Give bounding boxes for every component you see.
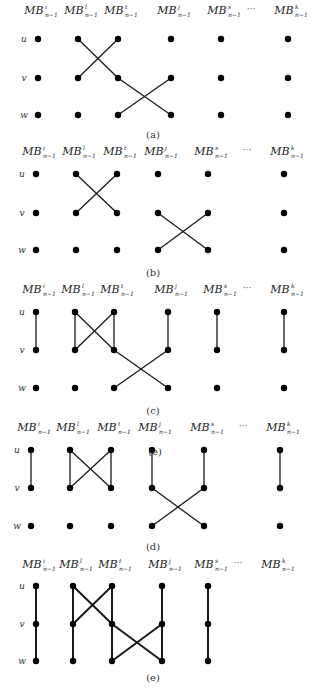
column-subscript: n−1 bbox=[224, 290, 237, 297]
vertex-j-w bbox=[155, 247, 161, 253]
column-superscript-k: k bbox=[291, 144, 295, 151]
panel-a: MBin−1MBln−1MBtn−1MBjn−1MBsn−1···MBkn−1u… bbox=[20, 3, 308, 140]
column-subscript: n−1 bbox=[77, 428, 90, 435]
column-label-s: MB bbox=[193, 558, 213, 571]
panel-caption-b: (b) bbox=[146, 267, 160, 278]
column-label-l: MB bbox=[60, 283, 80, 296]
column-label-s: MB bbox=[206, 4, 226, 17]
panel-caption-d: (d) bbox=[146, 541, 160, 552]
vertex-t-w bbox=[109, 658, 115, 664]
vertex-s-w bbox=[201, 523, 207, 529]
vertex-i-w bbox=[33, 247, 39, 253]
column-superscript-i: i bbox=[43, 144, 45, 151]
vertex-l-w bbox=[73, 247, 79, 253]
vertex-s-u bbox=[218, 36, 224, 42]
column-superscript-k: k bbox=[291, 282, 295, 289]
column-superscript-k: k bbox=[282, 557, 286, 564]
column-superscript-t: t bbox=[119, 557, 122, 564]
vertex-l-w bbox=[75, 112, 81, 118]
vertex-t-u bbox=[108, 447, 114, 453]
column-label-i: MB bbox=[21, 283, 41, 296]
column-ellipsis: ··· bbox=[234, 558, 243, 568]
vertex-l-u bbox=[72, 309, 78, 315]
vertex-k-w bbox=[281, 385, 287, 391]
column-subscript: n−1 bbox=[215, 565, 228, 572]
vertex-k-v bbox=[285, 75, 291, 81]
vertex-i-w bbox=[33, 385, 39, 391]
column-subscript: n−1 bbox=[43, 152, 56, 159]
column-label-l: MB bbox=[63, 4, 83, 17]
column-superscript-i: i bbox=[45, 3, 47, 10]
panel-caption-c: (c) bbox=[146, 405, 160, 416]
panel-e: MBin−1MBln−1MBtn−1MBjn−1MBsn−1···MBkn−1u… bbox=[18, 557, 295, 683]
panel-caption-a: (a) bbox=[146, 129, 160, 140]
column-label-j: MB bbox=[147, 558, 167, 571]
vertex-s-w bbox=[205, 247, 211, 253]
vertex-k-w bbox=[281, 247, 287, 253]
vertex-j-u bbox=[168, 36, 174, 42]
vertex-l-u bbox=[67, 447, 73, 453]
vertex-l-v bbox=[72, 347, 78, 353]
column-subscript: n−1 bbox=[178, 11, 191, 18]
column-label-l: MB bbox=[58, 558, 78, 571]
vertex-l-w bbox=[67, 523, 73, 529]
column-subscript: n−1 bbox=[287, 428, 300, 435]
vertex-i-u bbox=[33, 171, 39, 177]
column-subscript: n−1 bbox=[291, 152, 304, 159]
column-label-s: MB bbox=[193, 145, 213, 158]
vertex-k-u bbox=[277, 447, 283, 453]
column-label-k: MB bbox=[269, 145, 289, 158]
vertex-k-v bbox=[281, 347, 287, 353]
vertex-s-u bbox=[205, 171, 211, 177]
vertex-t-v bbox=[114, 210, 120, 216]
vertex-j-w bbox=[168, 112, 174, 118]
vertex-i-w bbox=[33, 658, 39, 664]
vertex-j-w bbox=[159, 658, 165, 664]
vertex-s-v bbox=[201, 485, 207, 491]
column-subscript: n−1 bbox=[282, 565, 295, 572]
column-label-j: MB bbox=[137, 421, 157, 434]
column-subscript: n−1 bbox=[215, 152, 228, 159]
column-ellipsis: ··· bbox=[243, 145, 252, 155]
vertex-k-w bbox=[285, 112, 291, 118]
vertex-j-w bbox=[165, 385, 171, 391]
column-label-k: MB bbox=[269, 283, 289, 296]
column-label-t: MB bbox=[102, 145, 122, 158]
column-subscript: n−1 bbox=[159, 428, 172, 435]
column-subscript: n−1 bbox=[175, 290, 188, 297]
column-label-j: MB bbox=[153, 283, 173, 296]
row-label-w: w bbox=[20, 110, 28, 120]
column-subscript: n−1 bbox=[118, 428, 131, 435]
column-superscript-i: i bbox=[43, 282, 45, 289]
vertex-k-u bbox=[281, 309, 287, 315]
vertex-s-v bbox=[205, 210, 211, 216]
column-label-t: MB bbox=[99, 283, 119, 296]
column-ellipsis: ··· bbox=[239, 421, 248, 431]
vertex-t-u bbox=[109, 583, 115, 589]
vertex-s-u bbox=[205, 583, 211, 589]
overlap-caption: (e) bbox=[148, 446, 162, 457]
vertex-t-v bbox=[111, 347, 117, 353]
vertex-l-u bbox=[70, 583, 76, 589]
vertex-i-v bbox=[33, 621, 39, 627]
row-label-u: u bbox=[19, 307, 25, 317]
column-subscript: n−1 bbox=[291, 290, 304, 297]
column-superscript-s: s bbox=[215, 144, 218, 151]
mobius-cube-path-diagram: MBin−1MBln−1MBtn−1MBjn−1MBsn−1···MBkn−1u… bbox=[0, 0, 313, 693]
vertex-s-v bbox=[214, 347, 220, 353]
panel-d: MBin−1MBln−1MBtn−1MBjn−1MBsn−1···MBkn−1u… bbox=[13, 420, 300, 552]
column-superscript-l: l bbox=[85, 3, 87, 10]
vertex-s-u bbox=[214, 309, 220, 315]
column-subscript: n−1 bbox=[80, 565, 93, 572]
panel-c: MBin−1MBln−1MBtn−1MBjn−1MBsn−1···MBkn−1u… bbox=[18, 282, 304, 416]
column-label-s: MB bbox=[189, 421, 209, 434]
vertex-s-v bbox=[205, 621, 211, 627]
column-label-k: MB bbox=[260, 558, 280, 571]
column-subscript: n−1 bbox=[165, 152, 178, 159]
vertex-s-u bbox=[201, 447, 207, 453]
column-superscript-l: l bbox=[77, 420, 79, 427]
column-label-s: MB bbox=[202, 283, 222, 296]
column-label-j: MB bbox=[143, 145, 163, 158]
vertex-j-v bbox=[155, 210, 161, 216]
row-label-w: w bbox=[18, 656, 26, 666]
